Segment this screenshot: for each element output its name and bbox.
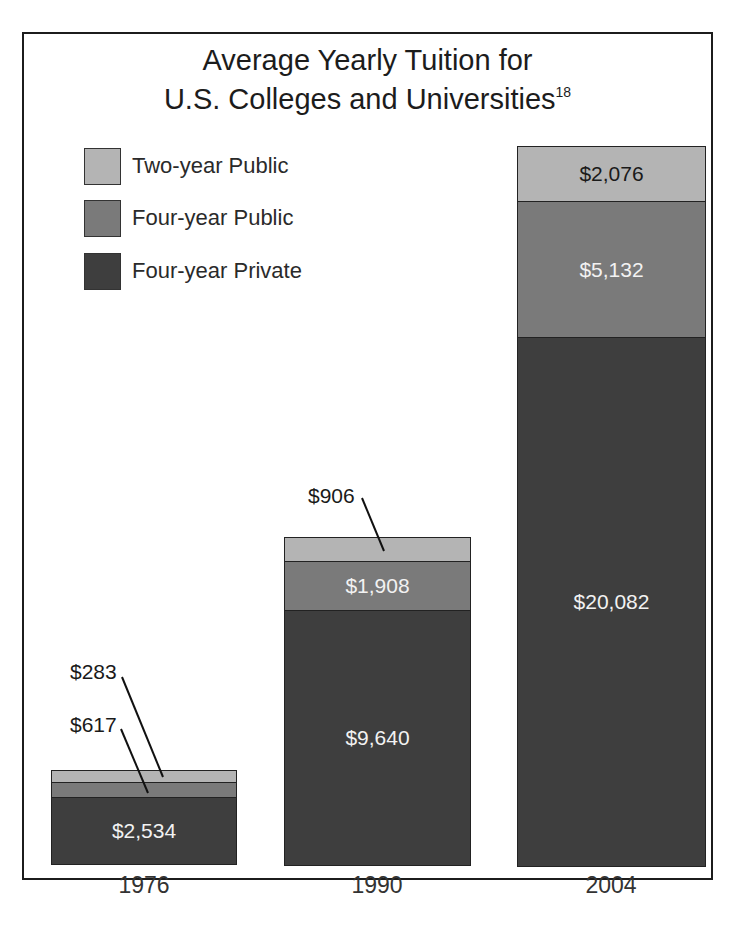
bar-1990-four-year-private: $9,640: [284, 610, 471, 866]
legend-swatch-four-year-private: [84, 253, 121, 290]
legend-swatch-four-year-public: [84, 200, 121, 237]
legend-item-four-year-private: Four-year Private: [84, 251, 302, 291]
title-footnote: 18: [556, 84, 572, 100]
value-label: $5,132: [579, 258, 643, 282]
bar-1990-four-year-public: $1,908: [284, 561, 471, 611]
bar-1976-four-year-public: [51, 782, 237, 798]
bar-2004-two-year-public: $2,076: [517, 146, 706, 202]
x-axis-label-1976: 1976: [51, 872, 237, 899]
legend-item-two-year-public: Two-year Public: [84, 146, 289, 186]
legend-label: Two-year Public: [132, 153, 289, 179]
value-label: $9,640: [345, 726, 409, 750]
legend-label: Four-year Private: [132, 258, 302, 284]
legend-label: Four-year Public: [132, 205, 293, 231]
value-label: $2,076: [579, 162, 643, 186]
bar-2004-four-year-private: $20,082: [517, 337, 706, 867]
value-label: $20,082: [574, 590, 650, 614]
bar-1976-four-year-private: $2,534: [51, 797, 237, 865]
value-label: $1,908: [345, 574, 409, 598]
legend-item-four-year-public: Four-year Public: [84, 198, 293, 238]
bar-1990-two-year-public: [284, 537, 471, 562]
callout-1976-two-year-public: $283: [70, 660, 117, 684]
value-label: $2,534: [112, 819, 176, 843]
legend-swatch-two-year-public: [84, 148, 121, 185]
chart-title-line1: Average Yearly Tuition for: [22, 44, 713, 76]
chart-title-line2: U.S. Colleges and Universities18: [22, 76, 713, 115]
chart-title: Average Yearly Tuition for U.S. Colleges…: [22, 44, 713, 115]
x-axis-label-1990: 1990: [284, 872, 470, 899]
x-axis-label-2004: 2004: [518, 872, 704, 899]
callout-1976-four-year-public: $617: [70, 713, 117, 737]
bar-2004-four-year-public: $5,132: [517, 201, 706, 338]
callout-1990-two-year-public: $906: [308, 484, 355, 508]
